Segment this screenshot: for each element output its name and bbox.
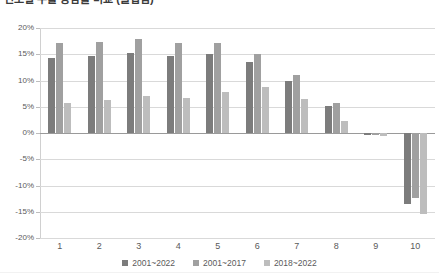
bar-group: 2 [80, 28, 120, 238]
y-axis-tick-label: 5% [0, 103, 34, 111]
bar [341, 121, 348, 133]
bar [175, 43, 182, 133]
x-axis-tick-label: 10 [396, 241, 436, 251]
legend-label: 2001~2022 [132, 258, 175, 268]
bar [325, 106, 332, 133]
x-axis-tick-label: 9 [356, 241, 396, 251]
y-axis-tick-label: 10% [0, 77, 34, 85]
bar-group: 1 [40, 28, 80, 238]
x-axis-tick-label: 4 [159, 241, 199, 251]
bar [412, 133, 419, 198]
bar-group: 6 [238, 28, 278, 238]
bar [135, 39, 142, 133]
bar [167, 56, 174, 133]
legend-item[interactable]: 2001~2022 [122, 258, 175, 268]
x-axis-tick-label: 3 [119, 241, 159, 251]
x-axis-tick-label: 6 [238, 241, 278, 251]
bar [301, 99, 308, 133]
plot-area: 12345678910 [40, 28, 435, 238]
y-axis-tick-label: 15% [0, 50, 34, 58]
bar [143, 96, 150, 133]
y-axis-tick-label: -20% [0, 234, 34, 242]
bar-group: 9 [356, 28, 396, 238]
bar [262, 87, 269, 133]
y-axis-tick-label: 20% [0, 24, 34, 32]
bar [127, 53, 134, 133]
bar [364, 133, 371, 135]
x-axis-tick-label: 7 [277, 241, 317, 251]
bar-group: 8 [317, 28, 357, 238]
bar [88, 56, 95, 133]
bar [64, 103, 71, 133]
legend-swatch-icon [122, 260, 128, 266]
legend-item[interactable]: 2001~2017 [193, 258, 246, 268]
legend-label: 2018~2022 [274, 258, 317, 268]
bar [56, 43, 63, 133]
gridline-neg20pct [40, 238, 435, 239]
bar-group: 3 [119, 28, 159, 238]
bar [214, 43, 221, 133]
y-axis-tick-label: 0% [0, 129, 34, 137]
bar-group: 7 [277, 28, 317, 238]
y-axis-tick-label: -5% [0, 155, 34, 163]
bar [104, 100, 111, 133]
y-axis-tick-label: -15% [0, 208, 34, 216]
x-axis-tick-label: 5 [198, 241, 238, 251]
chart-legend: 2001~20222001~20172018~2022 [0, 256, 439, 270]
x-axis-tick-label: 8 [317, 241, 357, 251]
bar-chart: 20%15%10%5%0%-5%-10%-15%-20% 12345678910 [0, 10, 439, 255]
bar [183, 98, 190, 133]
bar [222, 92, 229, 133]
x-axis-tick-label: 1 [40, 241, 80, 251]
bar-group: 4 [159, 28, 199, 238]
bar [206, 54, 213, 133]
bar [254, 54, 261, 133]
legend-label: 2001~2017 [203, 258, 246, 268]
chart-title: 연도별 수출 증감률 비교 (클립됨) [0, 0, 439, 9]
legend-swatch-icon [193, 260, 199, 266]
bar [246, 62, 253, 133]
y-axis-tick-label: -10% [0, 182, 34, 190]
bar [293, 75, 300, 133]
bar-group: 10 [396, 28, 436, 238]
bar [404, 133, 411, 204]
scan-artifact-line [0, 272, 439, 273]
legend-item[interactable]: 2018~2022 [264, 258, 317, 268]
chart-title-text: 연도별 수출 증감률 비교 (클립됨) [2, 0, 154, 4]
bar [420, 133, 427, 214]
legend-swatch-icon [264, 260, 270, 266]
bar [285, 81, 292, 134]
bar [372, 133, 379, 135]
x-axis-tick-label: 2 [80, 241, 120, 251]
bar [380, 133, 387, 136]
bar [96, 42, 103, 133]
bar [333, 103, 340, 133]
bar [48, 58, 55, 133]
bar-group: 5 [198, 28, 238, 238]
